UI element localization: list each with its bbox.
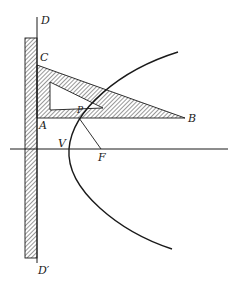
label-D-prime: D′: [38, 265, 49, 276]
parabola-construction-diagram: [0, 0, 230, 284]
straightedge-ruler: [25, 38, 37, 258]
label-P: P: [77, 106, 83, 115]
label-F: F: [98, 152, 106, 163]
label-C: C: [40, 52, 48, 63]
label-D: D: [41, 15, 50, 26]
set-square-triangle: [37, 65, 185, 118]
parabola-curve: [69, 52, 178, 249]
string-P-to-F: [79, 118, 101, 149]
label-B: B: [188, 113, 196, 124]
label-A: A: [39, 120, 47, 131]
label-V: V: [58, 138, 66, 149]
